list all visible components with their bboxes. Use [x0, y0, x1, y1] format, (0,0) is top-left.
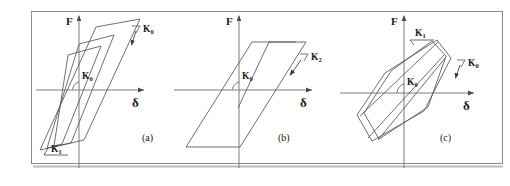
k0-callout-label: K0 [468, 58, 479, 69]
panel-b-tag: (b) [278, 132, 290, 144]
panel-a-k0-callout: K0 [131, 24, 154, 46]
k1-subscript: 1 [422, 32, 425, 39]
panel-a-loops [40, 19, 140, 150]
panel-a: K0 K0 K1 F δ (a) [36, 15, 154, 168]
k0-origin-subscript: 0 [249, 75, 252, 82]
k1-leader-tick [410, 40, 414, 45]
panel-c: K0 K1 K0 F δ (c) [340, 15, 479, 168]
angle-arc-icon [233, 82, 240, 90]
crossing-branch-2 [360, 42, 438, 116]
loop-middle [364, 41, 446, 139]
k0-origin-subscript: 0 [414, 81, 417, 88]
loop-outer [40, 19, 140, 150]
k0-callout-subscript: 0 [150, 28, 153, 35]
k0-origin-subscript: 0 [89, 75, 92, 82]
angle-arc-icon [73, 82, 80, 90]
panel-a-f-axis-label: F [66, 15, 73, 27]
crossing-branch-3 [378, 57, 446, 140]
panel-b-axes [174, 15, 312, 168]
callout-arrowhead [455, 73, 459, 79]
panel-b-k2-callout: K2 [290, 52, 322, 76]
panel-b-k0-origin: K0 [233, 71, 253, 90]
x-axis-arrowhead [468, 91, 474, 96]
panel-c-k0-callout: K0 [455, 58, 479, 79]
angle-mark-icon [300, 54, 308, 61]
k0-callout-subscript: 0 [475, 62, 478, 69]
panel-a-tag: (a) [142, 132, 153, 144]
panel-c-k0-origin: K0 [397, 77, 418, 93]
k0-origin-label: K0 [82, 71, 93, 82]
callout-arrowhead [131, 40, 135, 46]
k0-callout-label: K0 [143, 24, 154, 35]
figure-border [32, 12, 503, 164]
k2-label: K2 [311, 52, 322, 63]
loop-inner [54, 46, 101, 146]
x-axis-arrowhead [306, 88, 312, 93]
panel-a-delta-axis-label: δ [132, 95, 139, 110]
hysteresis-figure: K0 K0 K1 F δ (a) [0, 0, 510, 186]
y-axis-arrowhead [237, 15, 242, 21]
x-axis-arrowhead [138, 88, 144, 93]
k2-subscript: 2 [318, 56, 321, 63]
crossing-branch-1 [368, 55, 444, 138]
panel-c-axes [340, 15, 474, 168]
panel-c-delta-axis-label: δ [463, 98, 470, 113]
callout-arrowhead [290, 70, 295, 76]
panel-b-delta-axis-label: δ [300, 95, 307, 110]
k0-origin-label: K0 [407, 77, 418, 88]
k1-label: K1 [415, 28, 426, 39]
y-axis-arrowhead [77, 15, 82, 21]
k1-subscript: 1 [58, 148, 61, 155]
figure-canvas: K0 K0 K1 F δ (a) [0, 0, 510, 186]
angle-arc-icon [397, 84, 404, 93]
panel-b: K0 K2 F δ (b) [174, 15, 322, 168]
k0-origin-label: K0 [242, 71, 253, 82]
panel-c-tag: (c) [440, 132, 451, 144]
angle-mark-icon [457, 60, 465, 67]
panel-c-f-axis-label: F [391, 15, 398, 27]
y-axis-arrowhead [402, 15, 407, 21]
panel-b-f-axis-label: F [226, 15, 233, 27]
